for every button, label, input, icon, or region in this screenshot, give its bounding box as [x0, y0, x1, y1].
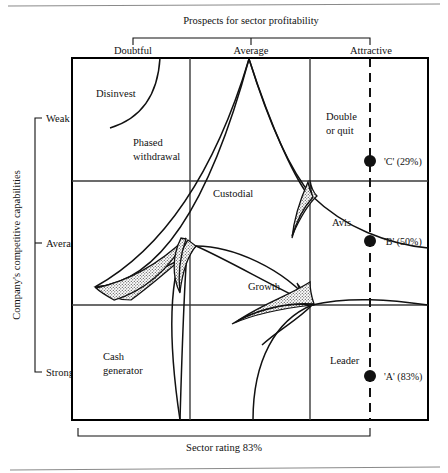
cell-label-disinvest: Disinvest [96, 88, 136, 99]
directional-policy-matrix: Prospects for sector profitability Doubt… [0, 0, 448, 473]
data-point-marker-c[interactable] [364, 155, 376, 167]
bottom-bracket-label: Sector rating 83% [186, 442, 262, 453]
data-point-a[interactable]: 'A' (83%) [364, 370, 422, 383]
y-tick-label-weak: Weak [46, 113, 70, 124]
cell-label-phased-withdrawal-line2: withdrawal [133, 151, 180, 162]
data-point-label-b: 'B' (50%) [384, 236, 422, 248]
cell-label-growth: Growth [248, 281, 281, 292]
cell-label-cash-generator-line2: generator [103, 365, 143, 376]
figure-root: Prospects for sector profitability Doubt… [0, 0, 448, 473]
data-point-b[interactable]: 'B' (50%) [364, 235, 422, 248]
data-point-c[interactable]: 'C' (29%) [364, 155, 422, 168]
page-rule-top [8, 4, 440, 6]
data-point-label-c: 'C' (29%) [384, 156, 422, 168]
top-bracket [133, 38, 370, 45]
cell-label-cash-generator-line1: Cash [103, 351, 125, 362]
page-rule-bottom [10, 467, 440, 470]
bottom-bracket [78, 428, 370, 436]
y-tick-label-strong: Strong [46, 367, 75, 378]
data-point-marker-a[interactable] [364, 370, 376, 382]
left-bracket [35, 118, 42, 372]
data-point-marker-b[interactable] [364, 235, 376, 247]
data-point-label-a: 'A' (83%) [384, 371, 422, 383]
x-tick-label-attractive: Attractive [350, 45, 392, 56]
cell-label-double-or-quit-line2: or quit [326, 125, 354, 136]
cell-label-double-or-quit-line1: Double [326, 111, 357, 122]
top-axis-title: Prospects for sector profitability [183, 15, 319, 26]
cell-label-phased-withdrawal-line1: Phased [133, 137, 163, 148]
x-tick-label-doubtful: Doubtful [114, 45, 152, 56]
cell-label-custodial: Custodial [213, 188, 253, 199]
x-tick-label-average: Average [234, 45, 269, 56]
cell-label-leader: Leader [330, 355, 360, 366]
left-axis-title: Company's competitive capabilities [11, 170, 22, 319]
cell-label-avis: Avis [332, 217, 351, 228]
